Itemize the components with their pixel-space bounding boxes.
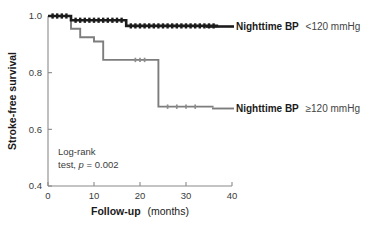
kaplan-meier-figure: 0.40.60.81.0 010203040 Stroke-free survi… [0,0,376,228]
y-tick-label-0.6: 0.6 [29,124,42,135]
y-tick-label-0.4: 0.4 [29,180,42,191]
logrank-p-symbol: p [78,159,84,170]
x-tick-label-10: 10 [89,190,100,201]
annotation-group: Log-rank test, p = 0.002 [58,146,119,170]
legend-low-bp-light: <120 mmHg [306,21,361,32]
x-axis-title-main: Follow-up [91,205,141,217]
x-axis-title-unit: (months) [148,205,189,217]
x-axis-title-group: Follow-up (months) [91,205,189,217]
logrank-suffix: = 0.002 [87,159,119,170]
legend-high-bp: Nighttime BP ≥120 mmHg [236,103,360,114]
logrank-prefix: test, [58,159,79,170]
y-axis-title: Stroke-free survival [6,52,18,150]
x-tick-label-0: 0 [45,190,50,201]
y-tick-label-0.8: 0.8 [29,67,42,78]
x-tick-label-30: 30 [181,190,192,201]
legend-label-high-bp: Nighttime BP ≥120 mmHg [236,103,360,114]
y-axis-title-group: Stroke-free survival [6,52,18,150]
survival-curve-high-bp [48,16,214,107]
legend-high-bp-bold: Nighttime BP [236,103,299,114]
survival-curve-low-bp [48,16,218,26]
x-tick-label-40: 40 [227,190,238,201]
x-tick-label-20: 20 [135,190,146,201]
legend-label-low-bp: Nighttime BP <120 mmHg [236,21,360,32]
chart-canvas: 0.40.60.81.0 010203040 Stroke-free survi… [0,0,376,228]
legend-low-bp: Nighttime BP <120 mmHg [236,21,360,32]
logrank-annotation-line2: test, p = 0.002 [58,159,119,170]
y-tick-label-1: 1.0 [29,10,42,21]
series-high-group [48,13,218,28]
legend-high-bp-light: ≥120 mmHg [306,103,360,114]
x-tick-group: 010203040 [45,182,237,201]
legend-low-bp-bold: Nighttime BP [236,21,299,32]
x-axis-title: Follow-up (months) [91,205,189,217]
logrank-annotation-line1: Log-rank [58,146,96,157]
